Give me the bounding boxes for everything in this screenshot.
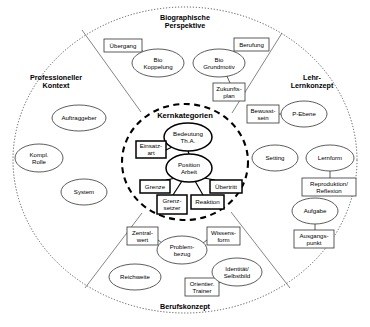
node-label-setting: Setting — [266, 154, 285, 161]
node-p-ebene[interactable]: P-Ebene — [281, 101, 327, 127]
node-bewusstsein[interactable]: Bewusst-sein — [247, 105, 279, 123]
node-wissensform[interactable]: Wissens-form — [207, 227, 240, 245]
node-bio-grundmotiv[interactable]: BioGrundmotiv — [193, 49, 245, 77]
node-auftraggeber[interactable]: Auftraggeber — [52, 105, 106, 131]
node-uebertritt[interactable]: Übertritt — [210, 180, 242, 193]
node-bio-koppelung[interactable]: BioKoppelung — [132, 49, 184, 77]
connector-position-arbeit-to-grenzsetzer — [173, 181, 182, 195]
sector-label-lehr: Lehr-Lernkonzept — [291, 73, 334, 91]
node-label-grenzsetzer: Grenz-setzer — [163, 197, 182, 211]
node-zentralwert[interactable]: Zentral-wert — [127, 227, 158, 245]
node-label-grenze: Grenze — [145, 182, 166, 189]
node-label-p-ebene: P-Ebene — [292, 110, 316, 117]
node-label-system: System — [74, 188, 94, 195]
diagram-canvas: ÜbergangBioKoppelungBioGrundmotivBerufun… — [0, 0, 370, 327]
node-system[interactable]: System — [61, 179, 107, 205]
connector-position-arbeit-to-reaktion — [195, 181, 203, 195]
concept-map-svg: ÜbergangBioKoppelungBioGrundmotivBerufun… — [0, 0, 370, 327]
node-label-identitaet-selbstbild: Identität/Selbstbild — [224, 264, 250, 278]
node-label-reichweite: Reichweite — [120, 273, 150, 280]
node-identitaet-selbstbild[interactable]: Identität/Selbstbild — [212, 258, 262, 286]
node-label-berufung: Berufung — [239, 40, 264, 47]
node-grenze[interactable]: Grenze — [140, 180, 170, 193]
node-label-uebertritt: Übertritt — [215, 182, 237, 189]
node-label-orientier-trainer: Orientier.Trainer — [190, 279, 215, 293]
node-position-arbeit[interactable]: PositionArbeit — [166, 154, 212, 182]
node-zukunftsplan[interactable]: Zukunfts-plan — [213, 83, 245, 101]
node-einsatzart[interactable]: Einsatz-art — [136, 141, 166, 158]
node-kompl-rolle[interactable]: Kompl.Rolle — [15, 144, 63, 172]
core-title-label: Kernkategorien — [157, 111, 213, 120]
node-label-uebergang: Übergang — [110, 41, 137, 48]
node-reichweite[interactable]: Reichweite — [109, 264, 161, 290]
node-aufgabe[interactable]: Aufgabe — [292, 198, 338, 224]
node-lernform[interactable]: Lernform — [306, 145, 354, 171]
node-berufung[interactable]: Berufung — [234, 38, 269, 51]
node-label-kompl-rolle: Kompl.Rolle — [30, 150, 49, 164]
node-bedeutung[interactable]: BedeutungTh.A. — [164, 123, 212, 151]
node-ausgangspunkt[interactable]: Ausgangs-punkt — [294, 230, 334, 248]
sector-label-biographische: BiographischePerspektive — [160, 13, 210, 31]
node-uebergang[interactable]: Übergang — [104, 39, 142, 52]
sector-label-professioneller: ProfessionellerKontext — [30, 73, 82, 91]
node-label-reaktion: Reaktion — [195, 198, 220, 205]
node-problembezug[interactable]: Problem-bezug — [157, 236, 207, 264]
node-reaktion[interactable]: Reaktion — [191, 195, 224, 209]
node-label-aufgabe: Aufgabe — [304, 207, 327, 214]
node-label-lernform: Lernform — [318, 154, 342, 161]
node-orientier-trainer[interactable]: Orientier.Trainer — [185, 278, 219, 296]
node-label-auftraggeber: Auftraggeber — [61, 114, 96, 121]
node-grenzsetzer[interactable]: Grenz-setzer — [157, 195, 187, 214]
node-reproduktion-reflexion[interactable]: Reproduktion/Reflexion — [302, 178, 356, 196]
node-setting[interactable]: Setting — [252, 145, 298, 171]
sector-label-berufskonzept: Berufskonzept — [160, 302, 211, 311]
